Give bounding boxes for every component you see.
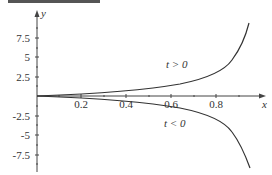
plot-area <box>0 0 272 175</box>
y-tick-label: -7.5 <box>2 150 30 161</box>
curve-t-positive <box>37 23 249 96</box>
y-tick-label: 5 <box>2 52 30 63</box>
y-axis-label: y <box>41 8 46 19</box>
y-tick-label: -2.5 <box>2 111 30 122</box>
x-tick-label: 0.4 <box>114 99 138 110</box>
x-tick-label: 0.2 <box>69 99 93 110</box>
annotation-t-positive: t > 0 <box>166 59 187 70</box>
y-axis-arrow-icon <box>35 10 40 17</box>
y-tick-label: 2.5 <box>2 72 30 83</box>
x-tick-label: 0.8 <box>204 99 228 110</box>
y-tick-label: 7.5 <box>2 33 30 44</box>
x-axis-label: x <box>262 99 267 110</box>
x-tick-label: 0.6 <box>159 99 183 110</box>
annotation-t-negative: t < 0 <box>164 118 185 129</box>
y-tick-label: -5 <box>2 130 30 141</box>
